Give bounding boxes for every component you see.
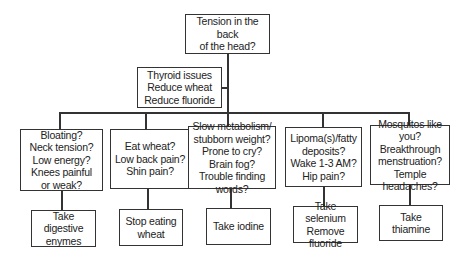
action-box-0: Take digestive enymes: [31, 210, 96, 247]
connector-branch-0: [59, 112, 61, 130]
branch-question-box-0: Bloating? Neck tension? Low energy? Knee…: [20, 129, 103, 191]
connector-side-note: [222, 87, 228, 89]
connector-action-0: [61, 190, 63, 211]
action-box-1: Stop eating wheat: [119, 209, 183, 246]
connector-action-1: [147, 188, 149, 210]
branch-question-box-3: Lipoma(s)/fatty deposits? Wake 1-3 AM? H…: [285, 127, 362, 187]
branch-question-box-1: Eat wheat? Low back pain? Shin pain?: [110, 129, 190, 189]
thyroid-note-box: Thyroid issues Reduce wheat Reduce fluor…: [137, 67, 222, 108]
root-question-box: Tension in the back of the head?: [185, 14, 270, 54]
action-box-2: Take iodine: [206, 208, 271, 245]
action-box-3: Take selenium Remove fluoride: [293, 206, 358, 243]
branch-question-box-4: Mosquitos like you? Breakthrough menstru…: [370, 125, 450, 185]
action-box-4: Take thiamine: [379, 205, 443, 241]
branch-question-box-2: Slow metabolism/ stubborn weight? Prone …: [188, 126, 276, 189]
connector-branch-3: [322, 112, 324, 128]
connector-root-down: [227, 54, 229, 112]
connector-branch-1: [145, 112, 147, 130]
connector-branch-bar: [59, 112, 408, 114]
